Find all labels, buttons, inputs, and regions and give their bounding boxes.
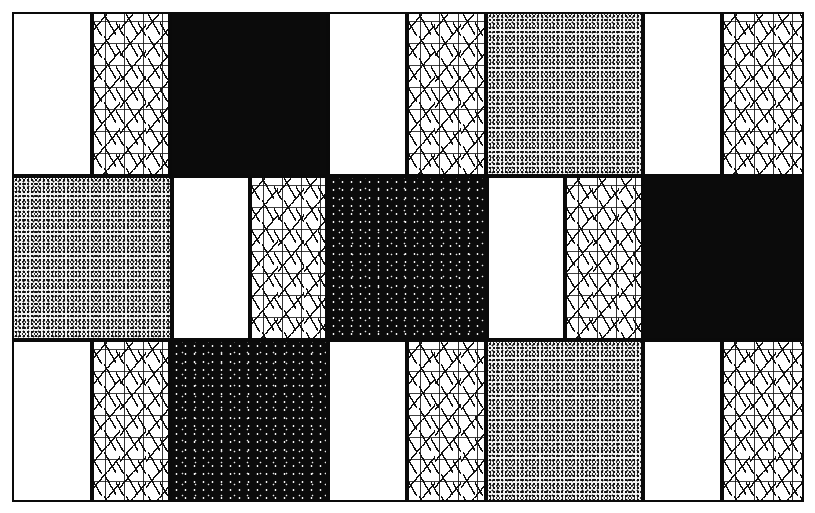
block-dash-r3c5 bbox=[407, 340, 486, 502]
block-dash-r3c2 bbox=[92, 340, 170, 502]
block-dash-r2c3 bbox=[250, 176, 327, 340]
block-dash-r1c8 bbox=[722, 12, 804, 176]
block-stipple-r2c1 bbox=[12, 176, 172, 340]
block-blank-r3c4 bbox=[328, 340, 407, 502]
block-blank-r2c2 bbox=[172, 176, 250, 340]
block-blank-r1c4 bbox=[328, 12, 407, 176]
block-dash-r3c8 bbox=[722, 340, 804, 502]
block-stipple-r3c6 bbox=[486, 340, 643, 502]
block-blank-r1c1 bbox=[12, 12, 92, 176]
block-dash-r2c6 bbox=[565, 176, 643, 340]
block-speckle-r3c3 bbox=[170, 340, 328, 502]
block-blank-r2c5 bbox=[487, 176, 565, 340]
block-blank-r3c7 bbox=[643, 340, 722, 502]
block-black-r1c3 bbox=[170, 12, 328, 176]
block-speckle-r2c4 bbox=[327, 176, 487, 340]
block-dash-r1c5 bbox=[407, 12, 486, 176]
block-black-r2c7 bbox=[643, 176, 804, 340]
block-blank-r1c7 bbox=[643, 12, 722, 176]
block-blank-r3c1 bbox=[12, 340, 92, 502]
block-stipple-r1c6 bbox=[486, 12, 643, 176]
block-dash-r1c2 bbox=[92, 12, 170, 176]
